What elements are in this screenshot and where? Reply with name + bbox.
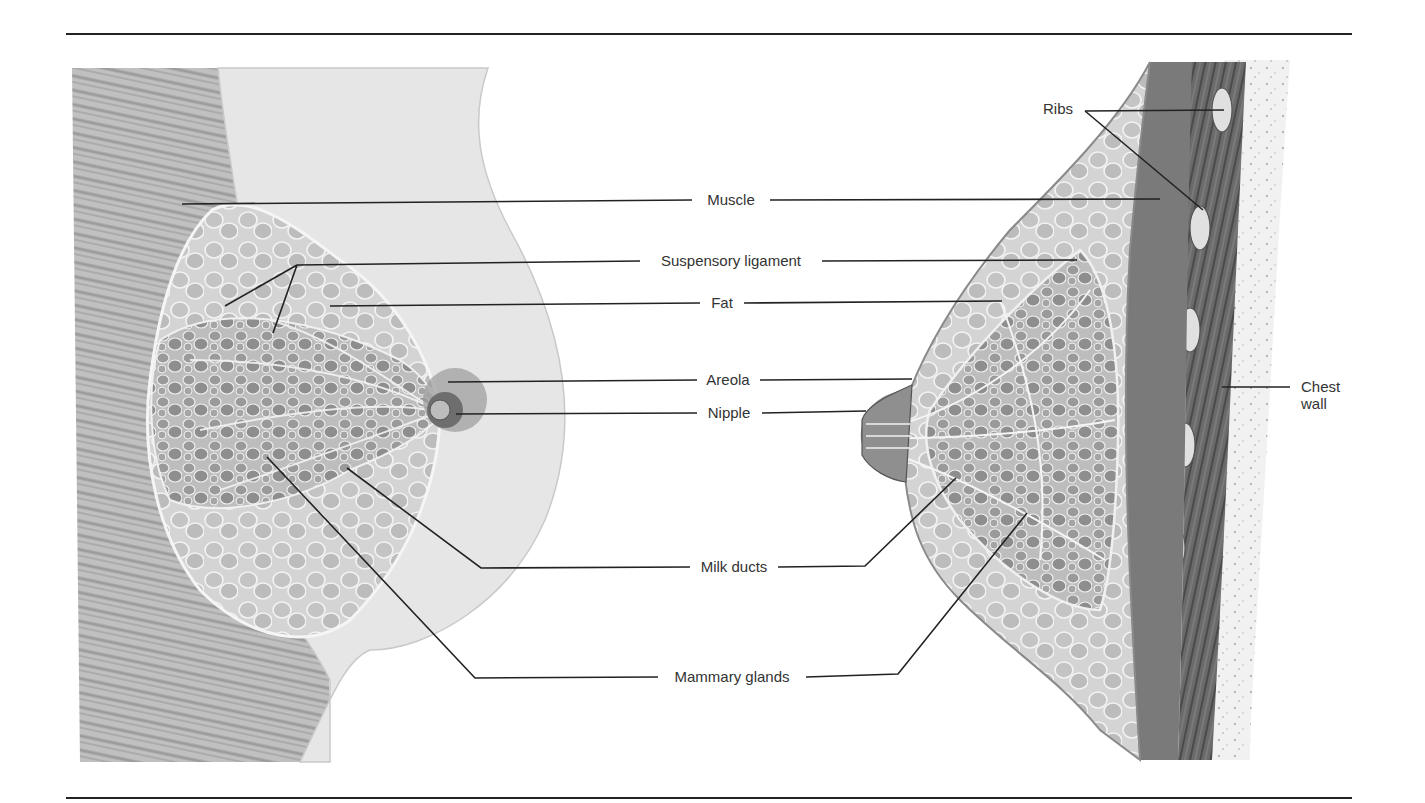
label-muscle: Muscle bbox=[704, 191, 758, 209]
anatomy-figure: Muscle Suspensory ligament Fat Areola Ni… bbox=[0, 0, 1425, 803]
label-chest-wall-line1: Chest bbox=[1301, 378, 1340, 395]
label-milk-ducts: Milk ducts bbox=[698, 558, 771, 576]
frontal-breast-illustration bbox=[72, 68, 565, 762]
label-mammary-glands: Mammary glands bbox=[671, 668, 792, 686]
label-suspensory-ligament: Suspensory ligament bbox=[658, 252, 804, 270]
label-fat: Fat bbox=[708, 294, 736, 312]
label-chest-wall: Chest wall bbox=[1298, 378, 1343, 412]
label-ribs: Ribs bbox=[1040, 100, 1076, 118]
sagittal-breast-illustration bbox=[862, 60, 1290, 760]
label-nipple: Nipple bbox=[705, 404, 754, 422]
label-chest-wall-line2: wall bbox=[1301, 395, 1340, 412]
label-areola: Areola bbox=[703, 371, 752, 389]
